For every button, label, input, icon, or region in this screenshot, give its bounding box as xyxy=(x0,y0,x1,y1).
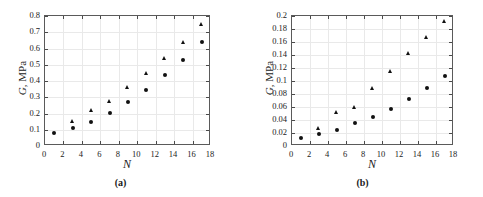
y-axis-tick-label: 0.12 xyxy=(257,62,287,72)
gridline-horizontal xyxy=(292,29,452,30)
y-axis-tick xyxy=(45,16,48,17)
data-point-circle xyxy=(335,128,339,132)
y-axis-tick-label: 0.08 xyxy=(257,88,287,98)
y-axis-tick-right xyxy=(206,32,209,33)
y-axis-tick-right xyxy=(449,42,452,43)
gridline-horizontal xyxy=(45,97,209,98)
data-point-triangle xyxy=(199,22,203,26)
y-axis-tick xyxy=(292,107,295,108)
gridline-horizontal xyxy=(292,120,452,121)
y-axis-tick-right xyxy=(449,107,452,108)
y-axis-tick-right xyxy=(206,130,209,131)
x-axis-tick-top xyxy=(82,16,83,19)
y-axis-tick-right xyxy=(449,29,452,30)
data-point-triangle xyxy=(181,40,185,44)
data-point-triangle xyxy=(442,19,446,23)
x-axis-tick xyxy=(119,141,120,144)
gridline-horizontal xyxy=(45,130,209,131)
gridline-vertical xyxy=(82,16,83,144)
x-axis-tick-top xyxy=(400,16,401,19)
panel-b: G, MPa N (b) 02468101214161800.020.040.0… xyxy=(242,0,483,197)
y-axis-tick xyxy=(292,120,295,121)
gridline-horizontal xyxy=(45,65,209,66)
y-axis-tick-right xyxy=(206,49,209,50)
data-point-triangle xyxy=(316,126,320,130)
x-axis-tick-top xyxy=(156,16,157,19)
data-point-circle xyxy=(163,73,167,77)
gridline-vertical xyxy=(418,16,419,144)
panel-a-tag: (a) xyxy=(0,177,241,188)
y-axis-tick-label: 0.14 xyxy=(257,49,287,59)
x-axis-tick-top xyxy=(328,16,329,19)
data-point-circle xyxy=(52,131,56,135)
y-axis-tick xyxy=(45,32,48,33)
gridline-horizontal xyxy=(292,107,452,108)
y-axis-tick-right xyxy=(449,16,452,17)
data-point-circle xyxy=(108,111,112,115)
y-axis-tick xyxy=(292,42,295,43)
x-axis-tick xyxy=(418,141,419,144)
panel-b-tag: (b) xyxy=(242,177,483,188)
y-axis-tick-right xyxy=(449,120,452,121)
gridline-vertical xyxy=(63,16,64,144)
data-point-triangle xyxy=(406,51,410,55)
gridline-horizontal xyxy=(292,42,452,43)
y-axis-tick xyxy=(292,133,295,134)
y-axis-tick-label: 0.4 xyxy=(10,75,40,85)
data-point-circle xyxy=(443,74,447,78)
gridline-vertical xyxy=(174,16,175,144)
y-axis-tick-right xyxy=(449,68,452,69)
gridline-vertical xyxy=(328,16,329,144)
data-point-circle xyxy=(71,126,75,130)
gridline-horizontal xyxy=(45,114,209,115)
gridline-vertical xyxy=(436,16,437,144)
data-point-triangle xyxy=(125,85,129,89)
y-axis-tick xyxy=(292,55,295,56)
data-point-circle xyxy=(89,120,93,124)
x-axis-tick xyxy=(193,141,194,144)
x-axis-tick-top xyxy=(436,16,437,19)
x-axis-tick xyxy=(328,141,329,144)
y-axis-tick-label: 0.06 xyxy=(257,101,287,111)
y-axis-tick-right xyxy=(206,97,209,98)
gridline-vertical xyxy=(193,16,194,144)
gridline-vertical xyxy=(119,16,120,144)
gridline-horizontal xyxy=(45,49,209,50)
data-point-circle xyxy=(389,107,393,111)
y-axis-tick-label: 0.1 xyxy=(257,75,287,85)
panel-b-plot-frame xyxy=(291,15,453,145)
data-point-triangle xyxy=(370,86,374,90)
data-point-circle xyxy=(407,97,411,101)
y-axis-tick-label: 0.1 xyxy=(10,124,40,134)
data-point-circle xyxy=(299,136,303,140)
data-point-circle xyxy=(317,132,321,136)
x-axis-tick-label: 18 xyxy=(438,149,468,159)
gridline-vertical xyxy=(137,16,138,144)
x-axis-tick xyxy=(382,141,383,144)
x-axis-tick xyxy=(310,141,311,144)
gridline-horizontal xyxy=(292,55,452,56)
x-axis-tick-top xyxy=(119,16,120,19)
y-axis-tick xyxy=(45,65,48,66)
x-axis-tick xyxy=(100,141,101,144)
y-axis-tick-label: 0.2 xyxy=(257,10,287,20)
panel-a-x-axis-label: N xyxy=(44,157,210,172)
x-axis-tick-top xyxy=(137,16,138,19)
x-axis-tick xyxy=(156,141,157,144)
panel-a-plot-frame xyxy=(44,15,210,145)
data-point-circle xyxy=(353,121,357,125)
y-axis-tick-label: 0.18 xyxy=(257,23,287,33)
gridline-horizontal xyxy=(292,81,452,82)
y-axis-tick-label: 0.6 xyxy=(10,43,40,53)
y-axis-tick-label: 0.02 xyxy=(257,127,287,137)
panel-b-x-axis-label: N xyxy=(291,157,453,172)
data-point-triangle xyxy=(70,119,74,123)
data-point-triangle xyxy=(424,35,428,39)
x-axis-tick-top xyxy=(193,16,194,19)
gridline-horizontal xyxy=(45,32,209,33)
x-axis-tick xyxy=(364,141,365,144)
y-axis-tick-right xyxy=(206,16,209,17)
y-axis-tick-label: 0 xyxy=(10,140,40,150)
x-axis-tick xyxy=(346,141,347,144)
gridline-horizontal xyxy=(45,81,209,82)
